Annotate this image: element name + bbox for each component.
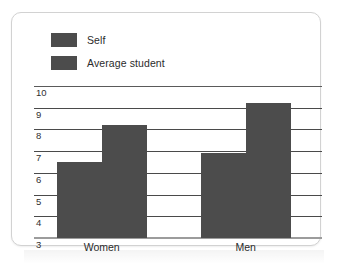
y-tick-label-5: 5 bbox=[36, 197, 41, 207]
chart-card: Self Average student 345678910 WomenMen bbox=[11, 12, 321, 246]
legend-item-average-student[interactable]: Average student bbox=[51, 53, 251, 73]
legend-item-self[interactable]: Self bbox=[51, 30, 251, 50]
x-tick-label-women: Women bbox=[84, 241, 120, 253]
y-tick-label-7: 7 bbox=[36, 153, 41, 163]
y-tick-label-6: 6 bbox=[36, 175, 41, 185]
legend-swatch-icon bbox=[51, 33, 77, 47]
x-tick-label-men: Men bbox=[235, 241, 255, 253]
x-axis-labels: WomenMen bbox=[34, 241, 322, 257]
plot-area: 345678910 bbox=[34, 86, 322, 238]
legend-swatch-icon bbox=[51, 56, 77, 70]
legend-label-self: Self bbox=[87, 34, 106, 46]
y-tick-label-9: 9 bbox=[36, 110, 41, 120]
y-tick-label-8: 8 bbox=[36, 131, 41, 141]
chart-page: Self Average student 345678910 WomenMen bbox=[0, 0, 340, 266]
legend-label-average-student: Average student bbox=[87, 57, 165, 69]
chart-legend: Self Average student bbox=[51, 30, 251, 76]
y-axis-labels: 345678910 bbox=[34, 86, 322, 238]
y-tick-label-10: 10 bbox=[36, 88, 47, 98]
y-tick-label-4: 4 bbox=[36, 218, 41, 228]
